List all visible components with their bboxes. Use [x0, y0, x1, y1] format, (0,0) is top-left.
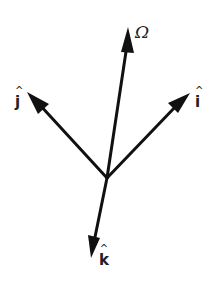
j-unit-vector: [27, 92, 107, 178]
hat-icon: ^: [195, 86, 200, 96]
hat-icon: ^: [99, 244, 109, 254]
j-label: ^ j: [15, 95, 20, 110]
i-unit-vector: [107, 93, 190, 178]
i-label: ^ i: [195, 95, 200, 110]
k-label: ^ k: [99, 253, 109, 268]
omega-label: Ω: [135, 24, 149, 41]
hat-icon: ^: [15, 86, 20, 96]
omega-label-text: Ω: [135, 22, 149, 42]
